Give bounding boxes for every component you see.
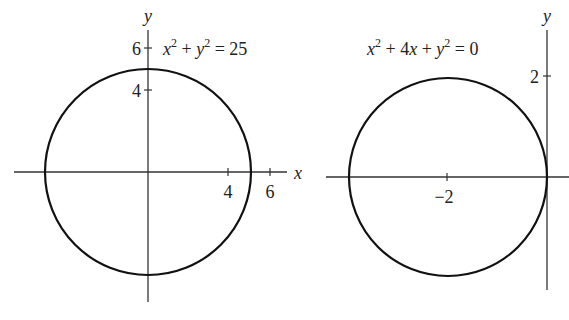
left-y-label: y xyxy=(142,6,152,26)
figure: y x 6 4 4 6 x2 + y2 = 25 y 2 −2 x2 + 4x … xyxy=(0,0,569,320)
right-graph: y 2 −2 x2 + 4x + y2 = 0 xyxy=(326,6,569,290)
left-graph: y x 6 4 4 6 x2 + y2 = 25 xyxy=(14,6,302,302)
left-tick-label-y4: 4 xyxy=(132,81,141,101)
right-tick-label-y2: 2 xyxy=(530,67,539,87)
left-x-label: x xyxy=(293,163,302,183)
right-equation: x2 + 4x + y2 = 0 xyxy=(366,36,478,59)
left-tick-label-y6: 6 xyxy=(132,39,141,59)
right-y-label: y xyxy=(541,6,551,26)
left-tick-label-x4: 4 xyxy=(224,182,233,202)
right-tick-label-xm2: −2 xyxy=(434,187,453,207)
left-equation: x2 + y2 = 25 xyxy=(162,36,247,59)
left-tick-label-x6: 6 xyxy=(266,182,275,202)
